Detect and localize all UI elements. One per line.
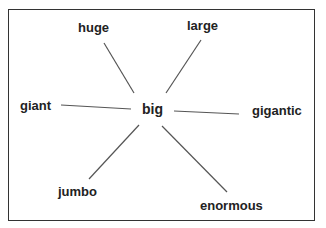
word-huge: huge [78,21,109,34]
line-enormous [162,126,227,192]
line-jumbo [89,125,139,179]
line-giant [61,105,131,109]
word-big: big [142,102,163,116]
line-gigantic [174,111,239,114]
word-gigantic: gigantic [252,104,302,117]
word-enormous: enormous [200,199,263,212]
line-large [166,40,201,93]
word-large: large [187,19,218,32]
word-giant: giant [20,99,51,112]
line-huge [104,43,134,93]
word-jumbo: jumbo [58,185,97,198]
